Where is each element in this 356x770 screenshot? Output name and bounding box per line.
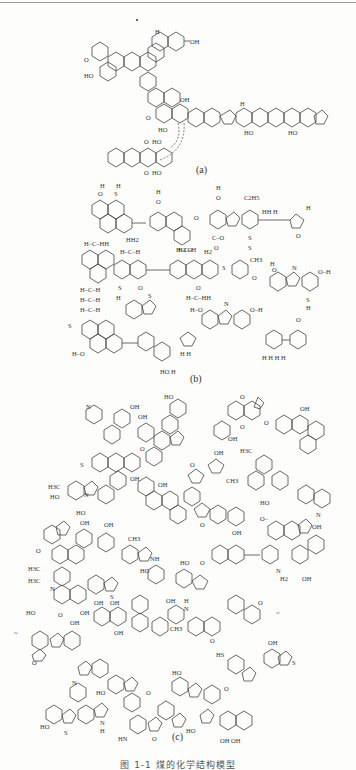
structure-c-drawing: N OH OH O HO S OH O O <box>0 395 356 750</box>
svg-text:O: O <box>190 461 195 468</box>
svg-text:O: O <box>98 190 103 197</box>
figure-caption: 图 1-1 煤的化学结构模型 <box>0 758 356 770</box>
svg-text:HO: HO <box>50 493 60 500</box>
svg-text:OH: OH <box>214 449 224 456</box>
svg-text:OH: OH <box>138 413 148 420</box>
svg-text:H3C: H3C <box>240 447 252 454</box>
svg-text:H: H <box>156 188 161 195</box>
svg-text:HO: HO <box>152 169 162 175</box>
svg-text:N: N <box>72 679 77 686</box>
svg-text:OH: OH <box>80 519 90 526</box>
svg-text:O: O <box>200 521 205 528</box>
structure-panel-b: HH OS HO O HO C2H5 HH H O H C–O O SS HH2… <box>0 180 356 390</box>
svg-text:O–H: O–H <box>250 306 263 313</box>
svg-text:H: H <box>100 727 105 734</box>
svg-text:HO: HO <box>96 689 106 696</box>
structure-b-drawing: HH OS HO O HO C2H5 HH H O H C–O O SS HH2… <box>0 180 356 390</box>
svg-text:OH: OH <box>104 521 114 528</box>
svg-text:HN: HN <box>118 735 128 742</box>
svg-text:H–C–H: H–C–H <box>120 248 141 255</box>
svg-text:HO: HO <box>158 126 168 133</box>
svg-text:O: O <box>58 611 63 618</box>
molecule-b: HH OS HO O HO C2H5 HH H O H C–O O SS HH2… <box>68 182 331 375</box>
svg-text:O: O <box>272 266 277 273</box>
svg-text:O: O <box>224 685 229 692</box>
svg-text:HH H: HH H <box>262 208 278 215</box>
panel-label-b: (b) <box>190 373 202 384</box>
svg-text:O: O <box>296 316 301 323</box>
svg-text:S: S <box>292 659 296 666</box>
svg-text:OH: OH <box>130 475 140 482</box>
svg-text:H: H <box>306 304 311 311</box>
svg-text:~: ~ <box>276 609 280 616</box>
svg-text:N: N <box>224 300 229 307</box>
svg-text:OH: OH <box>300 405 310 412</box>
svg-text:O: O <box>210 637 215 644</box>
svg-text:O: O <box>240 423 245 430</box>
svg-text:H H: H H <box>180 350 191 357</box>
svg-text:OH: OH <box>312 523 322 530</box>
svg-text:HO: HO <box>26 609 36 616</box>
structure-a-drawing: OH H O HO O HO OH <box>0 10 356 175</box>
svg-text:OH: OH <box>166 597 176 604</box>
svg-text:O: O <box>214 244 219 251</box>
panel-label-c: (c) <box>172 731 183 742</box>
svg-text:N: N <box>100 719 105 726</box>
svg-text:HS: HS <box>216 651 225 658</box>
svg-text:H–C–H: H–C–H <box>80 296 101 303</box>
svg-text:H: H <box>100 182 105 189</box>
svg-text:O–: O– <box>260 515 269 522</box>
svg-text:N: N <box>84 491 89 498</box>
svg-text:S: S <box>64 729 68 736</box>
svg-text:O: O <box>152 735 157 742</box>
svg-text:N: N <box>292 264 297 271</box>
structure-panel-a: OH H O HO O HO OH <box>0 10 356 175</box>
molecule-a: OH H O HO O HO OH <box>84 28 328 175</box>
svg-text:O: O <box>84 56 89 63</box>
svg-text:OH OH: OH OH <box>220 737 241 744</box>
svg-text:H3C: H3C <box>28 577 40 584</box>
svg-text:H H H H: H H H H <box>262 354 286 361</box>
svg-text:O–H: O–H <box>318 268 331 275</box>
svg-text:OH: OH <box>302 575 312 582</box>
svg-text:O: O <box>258 599 263 606</box>
svg-text:O: O <box>138 284 143 291</box>
svg-text:O: O <box>194 214 199 221</box>
svg-text:H2: H2 <box>204 248 212 255</box>
svg-text:HO: HO <box>84 72 94 79</box>
svg-text:H–C–HH: H–C–HH <box>84 240 109 247</box>
svg-text:H3C: H3C <box>48 483 60 490</box>
svg-text:HO: HO <box>172 669 182 676</box>
svg-text:OH: OH <box>232 529 242 536</box>
svg-text:CH3: CH3 <box>170 625 182 632</box>
svg-text:H–C–H: H–C–H <box>176 246 197 253</box>
svg-text:HO: HO <box>76 509 86 516</box>
svg-text:N: N <box>184 605 189 612</box>
svg-text:OH: OH <box>228 435 238 442</box>
svg-text:OH: OH <box>180 96 190 103</box>
svg-text:H–C–HH: H–C–HH <box>186 294 211 301</box>
svg-text:N: N <box>50 585 55 592</box>
page-top-rule <box>0 2 356 3</box>
svg-text:N: N <box>316 511 321 518</box>
svg-text:N: N <box>86 403 91 410</box>
svg-text:OH: OH <box>70 619 80 626</box>
svg-text:HO: HO <box>164 395 174 400</box>
svg-text:S: S <box>114 190 118 197</box>
svg-text:HO: HO <box>186 727 196 734</box>
svg-text:H–C–H: H–C–H <box>80 286 101 293</box>
svg-text:OH: OH <box>158 481 168 488</box>
svg-text:CH3: CH3 <box>128 535 140 542</box>
svg-text:O: O <box>264 419 269 426</box>
svg-text:OH: OH <box>94 599 104 606</box>
svg-text:O: O <box>146 689 151 696</box>
svg-text:O: O <box>296 232 301 239</box>
asterisk-marker <box>136 19 138 21</box>
svg-text:H: H <box>216 184 221 191</box>
svg-text:S: S <box>222 264 226 271</box>
svg-text:OH: OH <box>114 629 124 636</box>
panel-label-a: (a) <box>196 164 207 175</box>
svg-text:CH3: CH3 <box>226 477 238 484</box>
svg-text:CH3: CH3 <box>250 256 262 263</box>
svg-text:H2: H2 <box>280 575 288 582</box>
